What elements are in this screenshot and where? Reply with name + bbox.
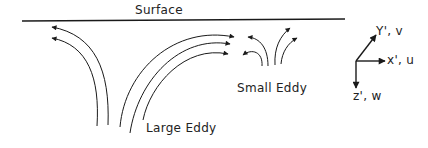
surface-label: Surface — [135, 3, 183, 17]
small-eddy-label: Small Eddy — [237, 81, 307, 95]
large-eddy-label: Large Eddy — [146, 121, 217, 135]
large-eddy-right-streamlines — [120, 35, 234, 133]
y-axis-label: Y', v — [376, 24, 403, 38]
small-eddy-streamlines — [243, 28, 297, 66]
z-axis-label: z', w — [353, 89, 382, 103]
x-axis-label: x', u — [387, 53, 414, 67]
large-eddy-left-streamlines — [52, 27, 108, 126]
coordinate-axes — [356, 35, 385, 88]
surface-line — [22, 19, 345, 21]
